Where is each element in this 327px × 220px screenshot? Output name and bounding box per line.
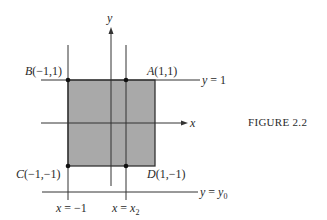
x-axis-label: x [189,116,196,130]
y-axis-arrow-icon [109,27,114,34]
label-x-equals-minus-1: x = −1 [55,201,87,215]
label-point-a: A(1,1) [146,64,177,78]
point-top-x2-dot [124,78,129,83]
label-y-equals-y0: y = y0 [199,185,227,201]
point-b-dot [66,78,71,83]
x-axis-arrow-icon [181,121,188,126]
point-bottom-x2-dot [124,164,129,169]
y-axis-label: y [106,11,113,25]
figure-caption: FIGURE 2.2 [248,116,307,128]
label-point-c: C(−1,−1) [16,167,61,181]
label-point-d: D(1,−1) [146,167,185,181]
label-point-b: B(−1,1) [25,64,62,78]
point-c-dot [66,164,71,169]
label-y-equals-1: y = 1 [201,73,226,87]
figure-diagram: y x B(−1,1) A(1,1) C(−1,−1) D(1,−1) y = … [0,0,327,220]
label-x-equals-x2: x = x2 [111,201,139,217]
